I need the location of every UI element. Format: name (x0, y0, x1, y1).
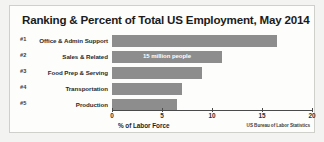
table-row: #2Sales & Related15 million people (0, 49, 324, 65)
table-row: #1Office & Admin Support (0, 33, 324, 49)
x-axis-tick-label: 20 (303, 112, 321, 119)
x-axis-tick-label: 15 (253, 112, 271, 119)
plot-area: #1Office & Admin Support#2Sales & Relate… (0, 0, 324, 142)
bar (112, 83, 182, 95)
x-axis-title: % of Labor Force (118, 122, 169, 129)
category-label: Sales & Related (26, 53, 108, 60)
table-row: #4Transportation (0, 81, 324, 97)
category-label: Production (26, 101, 108, 108)
category-label: Transportation (26, 85, 108, 92)
category-label: Food Prep & Serving (26, 69, 108, 76)
source-note: US Bureau of Labor Statistics (247, 123, 310, 128)
x-axis-tick-label: 5 (153, 112, 171, 119)
x-axis-tick-label: 10 (203, 112, 221, 119)
bar (112, 67, 202, 79)
bar (112, 35, 277, 47)
bar-annotation: 15 million people (143, 53, 191, 59)
category-label: Office & Admin Support (26, 37, 108, 44)
chart-figure: Ranking & Percent of Total US Employment… (0, 0, 324, 142)
bar (112, 99, 177, 111)
x-axis-tick-label: 0 (103, 112, 121, 119)
table-row: #3Food Prep & Serving (0, 65, 324, 81)
